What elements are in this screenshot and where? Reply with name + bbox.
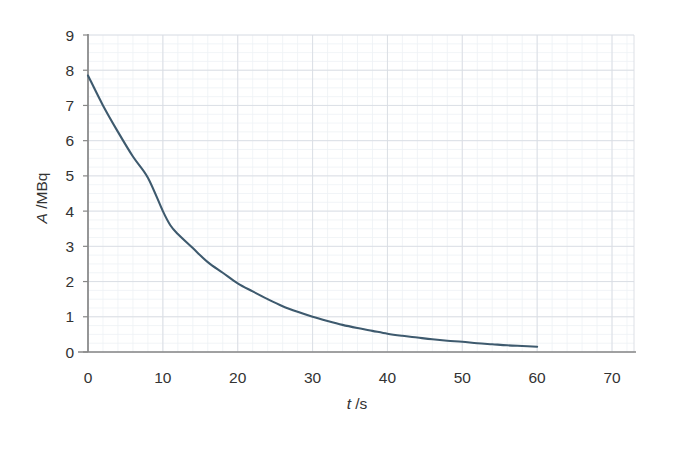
x-tick-label: 70 [603,369,621,386]
x-axis-title: t /s [347,395,368,412]
y-tick-label: 6 [65,132,74,149]
y-tick-label: 5 [65,167,74,184]
x-tick-label: 30 [304,369,322,386]
y-tick-label: 2 [65,273,74,290]
x-axis-tick-labels: 010203040506070 [84,369,621,386]
y-tick-label: 8 [65,62,74,79]
chart-canvas: 010203040506070 0123456789 t /s A /MBq [0,0,681,449]
y-tick-label: 7 [65,97,74,114]
y-tick-label: 9 [65,27,74,44]
x-tick-label: 20 [229,369,247,386]
y-tick-label: 3 [65,238,74,255]
y-tick-label: 1 [65,308,74,325]
x-tick-label: 0 [84,369,93,386]
x-tick-label: 60 [529,369,547,386]
y-axis-tick-labels: 0123456789 [65,27,74,361]
y-tick-label: 4 [65,203,74,220]
y-tick-label: 0 [65,344,74,361]
minor-gridlines [88,35,634,352]
y-axis-title: A /MBq [33,173,50,225]
x-tick-label: 50 [454,369,472,386]
x-tick-label: 10 [154,369,172,386]
exponential-decay-chart: 010203040506070 0123456789 t /s A /MBq [0,0,681,449]
x-tick-label: 40 [379,369,397,386]
